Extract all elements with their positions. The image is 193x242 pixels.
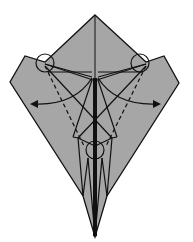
origami-diagram — [0, 0, 193, 242]
central-flap — [93, 78, 97, 237]
